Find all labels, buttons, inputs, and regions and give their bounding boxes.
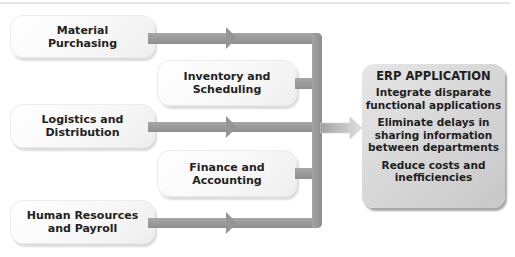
box-label: Logistics and Distribution (42, 113, 124, 139)
erp-benefit: Eliminate delays in sharing information … (362, 116, 505, 154)
arrowhead-icon (226, 116, 237, 138)
box-label: Human Resources and Payroll (27, 209, 138, 235)
top-divider (0, 2, 510, 4)
output-arrow-icon (320, 116, 364, 140)
arrowhead-icon (226, 212, 237, 234)
box-material-purchasing: Material Purchasing (10, 15, 155, 58)
box-label: Inventory and Scheduling (184, 70, 271, 96)
box-human-resources-payroll: Human Resources and Payroll (10, 200, 155, 244)
box-label: Material Purchasing (48, 24, 117, 50)
box-label: Finance and Accounting (189, 161, 264, 187)
box-logistics-distribution: Logistics and Distribution (10, 104, 155, 148)
erp-title: ERP APPLICATION (362, 69, 505, 83)
erp-benefit: Reduce costs and inefficiencies (362, 159, 505, 184)
erp-application-box: ERP APPLICATION Integrate disparate func… (362, 64, 505, 208)
box-inventory-scheduling: Inventory and Scheduling (157, 60, 297, 106)
erp-benefit: Integrate disparate functional applicati… (362, 86, 505, 111)
arrowhead-icon (226, 27, 237, 49)
box-finance-accounting: Finance and Accounting (157, 150, 297, 197)
